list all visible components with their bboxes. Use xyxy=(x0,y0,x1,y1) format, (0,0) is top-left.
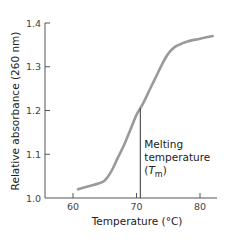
annotation-tm-symbol: (Tm) xyxy=(144,164,166,179)
x-axis-label: Temperature (°C) xyxy=(91,215,183,227)
annotation-temperature: temperature xyxy=(144,151,210,163)
x-tick-label: 60 xyxy=(67,201,79,212)
x-tick-label: 70 xyxy=(130,201,142,212)
x-tick-label: 80 xyxy=(194,201,206,212)
annotation-melting: Melting xyxy=(144,138,183,150)
y-tick-label: 1.1 xyxy=(26,149,41,160)
x-ticks: 607080 xyxy=(67,193,206,212)
y-tick-label: 1.2 xyxy=(26,105,41,116)
y-tick-label: 1.3 xyxy=(26,61,41,72)
y-tick-label: 1.4 xyxy=(26,18,41,29)
melting-curve-chart: 1.01.11.21.31.4 607080 Melting temperatu… xyxy=(0,0,230,242)
y-tick-label: 1.0 xyxy=(26,193,41,204)
y-axis-label: Relative absorbance (260 nm) xyxy=(9,32,21,191)
y-ticks: 1.01.11.21.31.4 xyxy=(26,18,50,204)
